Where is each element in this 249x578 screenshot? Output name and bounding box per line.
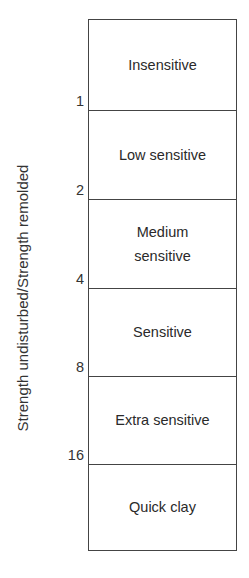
band-medium-sensitive: Medium sensitive [89,199,236,288]
band-low-sensitive: Low sensitive [89,110,236,199]
tick-4: 4 [76,271,84,287]
tick-2: 2 [76,182,84,198]
band-extra-sensitive: Extra sensitive [89,376,236,464]
band-label: Quick clay [129,495,196,519]
band-insensitive: Insensitive [89,20,236,110]
band-label: Low sensitive [119,143,206,167]
y-axis-label-text: Strength undisturbed/Strength remolded [14,165,31,432]
band-label: Medium sensitive [123,220,203,268]
band-quick-clay: Quick clay [89,464,236,550]
band-label: Sensitive [133,320,192,344]
tick-1: 1 [76,93,84,109]
sensitivity-scale: Insensitive Low sensitive Medium sensiti… [88,19,237,551]
band-label: Insensitive [128,53,197,77]
tick-16: 16 [68,447,84,463]
tick-8: 8 [76,359,84,375]
band-label: Extra sensitive [115,408,209,432]
band-sensitive: Sensitive [89,288,236,376]
